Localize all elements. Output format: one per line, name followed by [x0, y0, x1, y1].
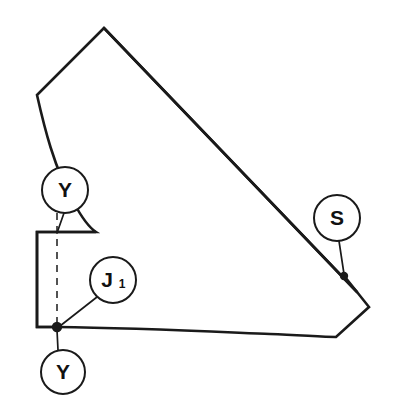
leader-line-j1	[60, 297, 97, 326]
lower-left-notch	[37, 232, 96, 327]
leader-line-s	[339, 241, 344, 274]
leader-line-y-upper	[57, 213, 64, 233]
callout-y-lower[interactable]: Y	[41, 350, 85, 394]
callout-label-s: S	[330, 206, 344, 229]
callout-circle-j1	[90, 257, 136, 303]
callout-label-y-upper: Y	[58, 178, 72, 201]
callout-j1[interactable]: J 1	[90, 257, 136, 303]
callout-label-j1: J	[101, 268, 113, 291]
callout-s[interactable]: S	[314, 195, 360, 241]
callout-label-y-lower: Y	[56, 360, 70, 383]
junction-dot-s	[340, 272, 348, 280]
leader-line-y-lower	[57, 330, 58, 350]
junction-dot-j1	[52, 322, 62, 332]
diagonal-right-edge	[104, 28, 357, 292]
callout-y-upper[interactable]: Y	[42, 167, 88, 213]
pattern-diagram-canvas: Y S J 1 Y	[0, 0, 393, 414]
diagram-root: Y S J 1 Y	[0, 0, 393, 414]
callout-subscript-j1: 1	[119, 277, 126, 291]
